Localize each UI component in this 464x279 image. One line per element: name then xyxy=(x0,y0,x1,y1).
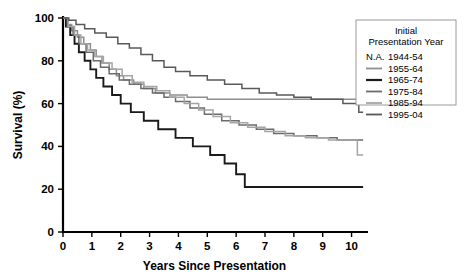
x-axis-title: Years Since Presentation xyxy=(143,259,286,273)
legend-label-1955-64: 1955-64 xyxy=(388,63,423,74)
legend-label-1965-74: 1965-74 xyxy=(388,74,423,85)
y-tick-label-20: 20 xyxy=(41,183,54,195)
km-curves-group xyxy=(63,18,363,187)
legend-na-label: N.A. xyxy=(366,51,384,62)
x-tick-label-10: 10 xyxy=(345,240,358,252)
legend-label-1944-54: 1944-54 xyxy=(388,51,423,62)
y-tick-label-0: 0 xyxy=(48,226,54,238)
y-tick-label-100: 100 xyxy=(35,12,54,24)
x-tick-label-0: 0 xyxy=(60,240,66,252)
axes-group: 020406080100012345678910Years Since Pres… xyxy=(11,12,368,273)
legend-title-line2: Presentation Year xyxy=(368,36,443,47)
y-tick-label-60: 60 xyxy=(41,98,54,110)
x-tick-label-8: 8 xyxy=(291,240,298,252)
y-axis-title: Survival (%) xyxy=(11,91,25,160)
y-tick-label-40: 40 xyxy=(41,140,54,152)
chart-page: 020406080100012345678910Years Since Pres… xyxy=(0,0,464,279)
x-tick-label-6: 6 xyxy=(233,240,239,252)
legend-label-1975-84: 1975-84 xyxy=(388,86,423,97)
km-curve-1975-84 xyxy=(63,18,363,140)
survival-chart: 020406080100012345678910Years Since Pres… xyxy=(0,0,464,279)
x-tick-label-5: 5 xyxy=(204,240,211,252)
y-tick-label-80: 80 xyxy=(41,55,54,67)
legend-title-line1: Initial xyxy=(395,25,417,36)
x-tick-label-1: 1 xyxy=(89,240,96,252)
legend-label-1985-94: 1985-94 xyxy=(388,97,423,108)
axis-lines xyxy=(63,16,368,232)
x-tick-label-3: 3 xyxy=(146,240,152,252)
x-tick-label-2: 2 xyxy=(118,240,124,252)
x-tick-label-7: 7 xyxy=(262,240,268,252)
km-curve-1965-74 xyxy=(63,18,363,187)
x-tick-label-4: 4 xyxy=(175,240,182,252)
x-tick-label-9: 9 xyxy=(320,240,326,252)
legend-label-1995-04: 1995-04 xyxy=(388,109,423,120)
chart-legend: InitialPresentation YearN.A.1944-541955-… xyxy=(356,20,456,120)
km-curve-1995-04 xyxy=(63,18,363,112)
